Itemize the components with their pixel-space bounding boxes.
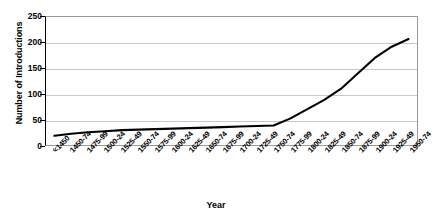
y-tick-mark-0 [40,146,45,147]
x-tick-mark-8 [189,148,190,151]
x-axis-tick-labels: <14501450-741475-991500-241525-491550-74… [45,148,418,198]
x-tick-mark-5 [138,148,139,151]
x-tick-mark-12 [257,148,258,151]
x-tick-mark-15 [308,148,309,151]
x-tick-mark-14 [291,148,292,151]
line-chart: Number of Introductions 050100150200250 … [0,0,432,219]
y-tick-mark-200 [40,42,45,43]
y-axis-tick-labels: 050100150200250 [0,0,42,219]
x-tick-mark-17 [342,148,343,151]
x-tick-mark-10 [223,148,224,151]
plot-area [45,16,418,146]
y-tick-label-0: 0 [4,142,42,150]
y-tick-label-100: 100 [4,90,42,98]
x-axis-title: Year [0,200,432,210]
x-tick-mark-9 [206,148,207,151]
y-tick-label-150: 150 [4,64,42,72]
x-tick-mark-4 [121,148,122,151]
x-tick-mark-18 [359,148,360,151]
y-tick-label-200: 200 [4,38,42,46]
series-line [46,17,417,145]
x-tick-mark-16 [325,148,326,151]
x-tick-mark-0 [53,148,54,151]
x-tick-mark-11 [240,148,241,151]
y-tick-mark-150 [40,68,45,69]
x-tick-mark-13 [274,148,275,151]
x-tick-mark-2 [87,148,88,151]
x-tick-mark-19 [376,148,377,151]
x-tick-mark-7 [172,148,173,151]
x-tick-mark-21 [410,148,411,151]
y-tick-mark-250 [40,16,45,17]
x-tick-mark-3 [104,148,105,151]
y-tick-mark-100 [40,94,45,95]
y-tick-mark-50 [40,120,45,121]
y-tick-label-250: 250 [4,12,42,20]
x-tick-mark-1 [70,148,71,151]
y-tick-label-50: 50 [4,116,42,124]
x-tick-mark-20 [393,148,394,151]
x-tick-mark-6 [155,148,156,151]
